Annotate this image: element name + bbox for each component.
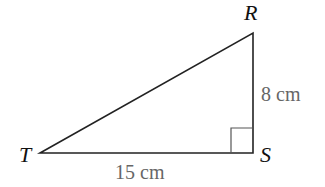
triangle-trs — [40, 33, 253, 153]
right-angle-marker — [231, 128, 253, 153]
vertex-label-s: S — [260, 142, 271, 167]
vertex-label-r: R — [243, 0, 258, 25]
triangle-diagram: R S T 8 cm 15 cm — [0, 0, 325, 187]
vertex-label-t: T — [19, 142, 33, 167]
side-label-ts: 15 cm — [115, 161, 165, 183]
side-label-rs: 8 cm — [261, 83, 301, 105]
